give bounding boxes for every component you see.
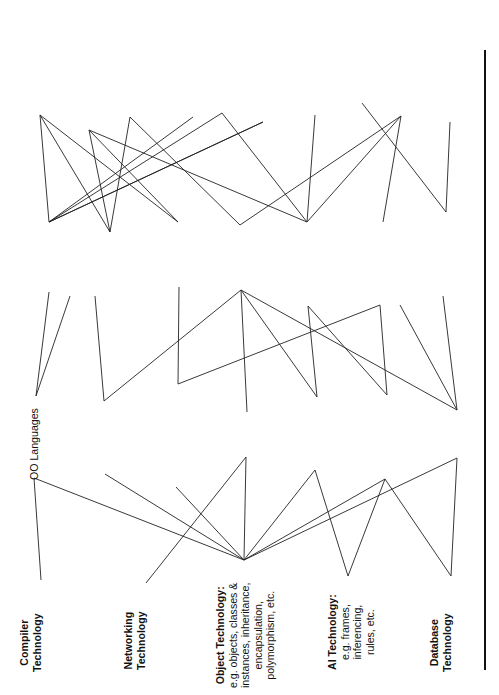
tech-label-line: Technology [31,613,44,672]
tech-label-line: e.g. frames, [339,594,352,670]
connector-line [34,478,244,560]
tech-label-object: Object Technology:e.g. objects, classes … [214,583,277,688]
connector-line [385,479,451,576]
tech-label-line: Technology [135,611,148,670]
connector-line [36,296,70,396]
connector-line [241,290,317,397]
tech-label-ai: AI Technology:e.g. frames,inferencing,ru… [326,594,376,670]
connector-line [443,296,457,410]
connector-line [36,292,49,396]
connector-line [315,470,348,576]
tech-label-line: Object Technology: [214,583,227,688]
connector-line [89,130,110,232]
connector-line [34,478,41,580]
connector-line [130,117,240,225]
connector-line [89,130,178,222]
connector-line [176,487,244,560]
tech-label-line: polymorphism, etc. [264,583,277,688]
connector-line [241,290,247,412]
tech-label-line: e.g. objects, classes & [227,583,240,688]
tech-label-line: Database [428,613,441,672]
connector-line [49,122,263,222]
connector-line [383,116,401,222]
connector-line [244,458,457,560]
connector-line [222,113,307,222]
connector-line [307,116,401,222]
tech-label-line: instances, inheritance, [239,583,252,688]
tech-label-line: encapsulation, [252,583,265,688]
cat-label-oo-languages: OO Languages [28,408,41,480]
connector-line [244,470,315,560]
connector-line [348,479,385,576]
connector-line [380,305,387,395]
tech-label-line: AI Technology: [326,594,339,670]
connector-line [146,457,246,583]
tech-label-line: inferencing, [351,594,364,670]
tech-label-line: Technology [441,613,454,672]
connector-line [240,116,401,225]
tech-label-line: rules, etc. [364,594,377,670]
connector-line [104,290,241,401]
connector-line [307,115,315,222]
connector-line [308,306,317,397]
connector-line [362,103,446,212]
connector-line [40,115,110,232]
tech-label-line: Networking [122,611,135,670]
connector-line [308,306,387,395]
connector-line [178,287,179,384]
tech-label-line: Compiler [18,613,31,672]
tech-label-networking: NetworkingTechnology [122,611,147,670]
connector-line [244,479,385,560]
connector-line [95,296,104,401]
tech-label-database: DatabaseTechnology [428,613,453,672]
connector-line [446,122,450,212]
connector-line [49,113,222,222]
connector-line [110,117,130,232]
tech-label-compiler: CompilerTechnology [18,613,43,672]
object-technology-diagram: CompilerTechnologyNetworkingTechnologyOb… [0,0,499,695]
connector-line [40,115,178,222]
connector-line [40,115,49,222]
cat-label-line: OO Languages [28,408,41,480]
connector-line [451,458,457,576]
right-border-rule [484,50,486,670]
connector-line [244,457,246,560]
